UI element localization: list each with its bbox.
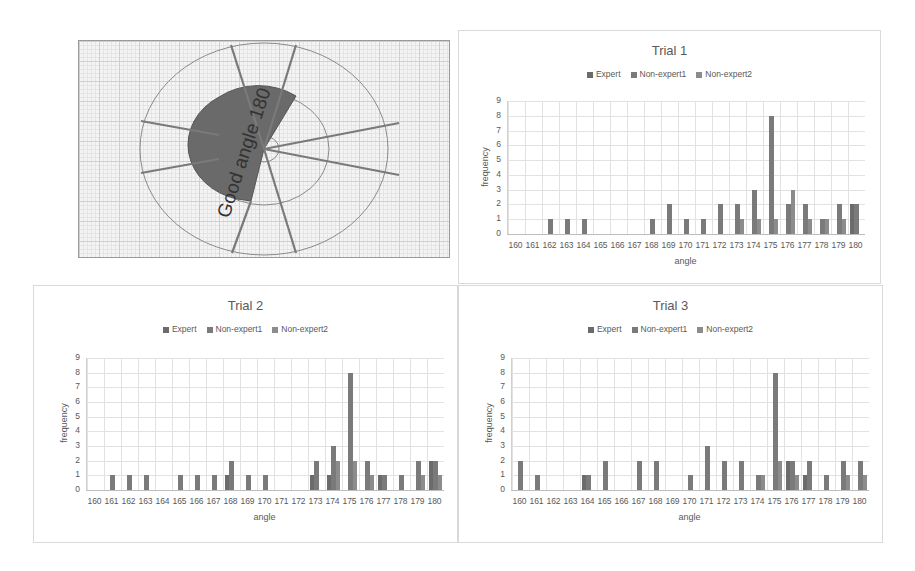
y-tick-label: 0 <box>487 228 501 238</box>
legend-item[interactable]: Expert <box>163 324 197 334</box>
gridline-vertical <box>529 358 530 490</box>
bar-non-expert2[interactable] <box>761 475 766 490</box>
legend-item[interactable]: Non-expert2 <box>697 324 753 334</box>
bar-non-expert1[interactable] <box>769 116 774 234</box>
legend-swatch-icon <box>587 72 593 78</box>
bar-non-expert1[interactable] <box>824 475 829 490</box>
bar-non-expert1[interactable] <box>127 475 132 490</box>
x-tick-label: 162 <box>545 496 562 506</box>
x-tick-label: 180 <box>847 240 864 250</box>
bar-non-expert1[interactable] <box>739 461 744 490</box>
bar-non-expert2[interactable] <box>778 461 783 490</box>
bar-non-expert1[interactable] <box>637 461 642 490</box>
legend-item[interactable]: Expert <box>588 324 622 334</box>
bar-non-expert2[interactable] <box>370 475 375 490</box>
chart-trial-2: Trial 2ExpertNon-expert1Non-expert201234… <box>33 285 458 543</box>
gridline-vertical <box>835 358 836 490</box>
bar-non-expert1[interactable] <box>688 475 693 490</box>
bar-non-expert1[interactable] <box>582 219 587 234</box>
bar-non-expert1[interactable] <box>399 475 404 490</box>
x-tick-label: 164 <box>575 240 592 250</box>
gridline-vertical <box>614 358 615 490</box>
legend-item[interactable]: Non-expert2 <box>272 324 328 334</box>
bar-non-expert1[interactable] <box>178 475 183 490</box>
x-tick-label: 161 <box>103 496 120 506</box>
bar-non-expert1[interactable] <box>603 461 608 490</box>
legend-item[interactable]: Non-expert1 <box>632 324 688 334</box>
bar-non-expert1[interactable] <box>718 204 723 234</box>
bar-non-expert1[interactable] <box>548 219 553 234</box>
bar-non-expert2[interactable] <box>421 475 426 490</box>
bar-non-expert1[interactable] <box>195 475 200 490</box>
legend-label: Non-expert2 <box>281 324 328 334</box>
bar-non-expert1[interactable] <box>314 461 319 490</box>
legend-item[interactable]: Non-expert1 <box>207 324 263 334</box>
bar-non-expert2[interactable] <box>808 219 813 234</box>
bar-non-expert1[interactable] <box>586 475 591 490</box>
bar-non-expert2[interactable] <box>842 219 847 234</box>
bar-non-expert1[interactable] <box>212 475 217 490</box>
bar-non-expert1[interactable] <box>701 219 706 234</box>
gridline-horizontal <box>508 160 865 161</box>
bar-non-expert2[interactable] <box>774 219 779 234</box>
y-tick-label: 7 <box>491 381 505 391</box>
bar-non-expert1[interactable] <box>263 475 268 490</box>
bar-non-expert2[interactable] <box>795 475 800 490</box>
y-axis-label: frequency <box>59 393 69 453</box>
bar-non-expert2[interactable] <box>438 475 443 490</box>
bar-non-expert1[interactable] <box>246 475 251 490</box>
bar-non-expert1[interactable] <box>684 219 689 234</box>
angle-diagram: Good angle 180 <box>78 40 450 258</box>
bar-non-expert1[interactable] <box>807 461 812 490</box>
legend-swatch-icon <box>588 327 594 333</box>
y-axis-label: frequency <box>480 137 490 197</box>
x-tick-label: 174 <box>749 496 766 506</box>
y-tick-label: 9 <box>491 352 505 362</box>
x-tick-label: 177 <box>800 496 817 506</box>
gridline-vertical <box>274 358 275 490</box>
gridline-vertical <box>750 358 751 490</box>
bar-non-expert2[interactable] <box>825 219 830 234</box>
legend-item[interactable]: Expert <box>587 69 621 79</box>
x-tick-label: 169 <box>239 496 256 506</box>
bar-non-expert1[interactable] <box>667 204 672 234</box>
gridline-vertical <box>767 358 768 490</box>
bar-non-expert2[interactable] <box>791 190 796 234</box>
bar-non-expert2[interactable] <box>846 475 851 490</box>
gridline-vertical <box>393 358 394 490</box>
gridline-vertical <box>801 358 802 490</box>
x-tick-label: 170 <box>677 240 694 250</box>
x-tick-label: 165 <box>171 496 188 506</box>
legend-item[interactable]: Non-expert2 <box>696 69 752 79</box>
gridline-vertical <box>576 101 577 234</box>
bar-non-expert2[interactable] <box>353 461 358 490</box>
gridline-horizontal <box>508 131 865 132</box>
bar-non-expert1[interactable] <box>382 475 387 490</box>
gridline-vertical <box>597 358 598 490</box>
bar-non-expert1[interactable] <box>565 219 570 234</box>
bar-non-expert1[interactable] <box>705 446 710 490</box>
bar-non-expert2[interactable] <box>757 219 762 234</box>
plot-area <box>86 358 444 491</box>
gridline-vertical <box>563 358 564 490</box>
bar-non-expert1[interactable] <box>518 461 523 490</box>
bar-non-expert1[interactable] <box>650 219 655 234</box>
bar-non-expert1[interactable] <box>110 475 115 490</box>
x-tick-label: 180 <box>426 496 443 506</box>
legend-item[interactable]: Non-expert1 <box>631 69 687 79</box>
bar-non-expert1[interactable] <box>535 475 540 490</box>
chart-legend: ExpertNon-expert1Non-expert2 <box>459 324 882 334</box>
chart-legend: ExpertNon-expert1Non-expert2 <box>34 324 457 334</box>
bar-non-expert2[interactable] <box>740 219 745 234</box>
bar-non-expert1[interactable] <box>144 475 149 490</box>
bar-non-expert2[interactable] <box>863 475 868 490</box>
bar-non-expert1[interactable] <box>654 461 659 490</box>
x-tick-label: 166 <box>188 496 205 506</box>
bar-non-expert1[interactable] <box>229 461 234 490</box>
gridline-vertical <box>797 101 798 234</box>
gridline-vertical <box>512 358 513 490</box>
x-tick-label: 173 <box>728 240 745 250</box>
bar-non-expert2[interactable] <box>336 461 341 490</box>
bar-non-expert1[interactable] <box>854 204 859 234</box>
bar-non-expert1[interactable] <box>722 461 727 490</box>
